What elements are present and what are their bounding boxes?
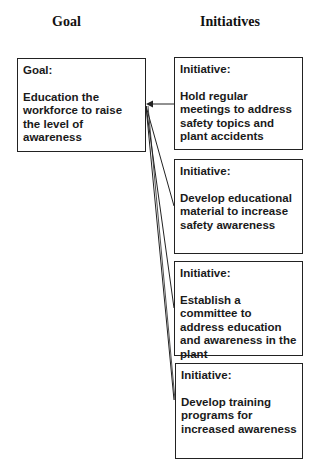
initiative-box-2: Initiative: Develop educational material… bbox=[174, 159, 303, 254]
initiative-text: Develop training programs for increased … bbox=[181, 396, 297, 437]
initiative-label: Initiative: bbox=[181, 369, 297, 383]
initiative-box-1: Initiative: Hold regular meetings to add… bbox=[174, 57, 303, 150]
initiative-box-4: Initiative: Develop training programs fo… bbox=[175, 363, 303, 459]
initiative-label: Initiative: bbox=[180, 267, 297, 281]
initiative-box-3: Initiative: Establish a committee to add… bbox=[174, 261, 303, 356]
arrowhead-icon bbox=[146, 101, 153, 108]
initiative-label: Initiative: bbox=[180, 63, 297, 77]
goal-label: Goal: bbox=[23, 64, 140, 78]
initiative-label: Initiative: bbox=[180, 165, 297, 179]
goal-box: Goal: Education the workforce to raise t… bbox=[17, 58, 146, 152]
goal-text: Education the workforce to raise the lev… bbox=[23, 91, 140, 145]
initiative-text: Establish a committee to address educati… bbox=[180, 294, 297, 362]
initiative-text: Develop educational material to increase… bbox=[180, 192, 297, 233]
initiative-text: Hold regular meetings to address safety … bbox=[180, 90, 297, 144]
